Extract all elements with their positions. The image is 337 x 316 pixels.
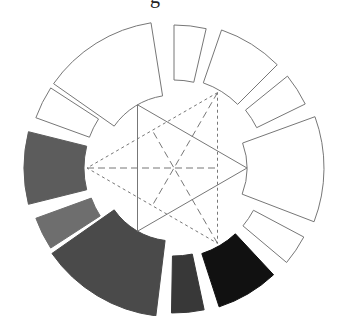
ring-segments (24, 23, 324, 316)
segment-top-narrow (174, 25, 206, 82)
median-line (152, 130, 217, 243)
segment-black (202, 234, 274, 307)
ring-diagram (0, 0, 337, 316)
median-line (152, 93, 217, 206)
segment-left-gray (24, 132, 87, 205)
segment-right-large (242, 117, 324, 222)
segment-bottom-narrow-dark (171, 254, 204, 313)
